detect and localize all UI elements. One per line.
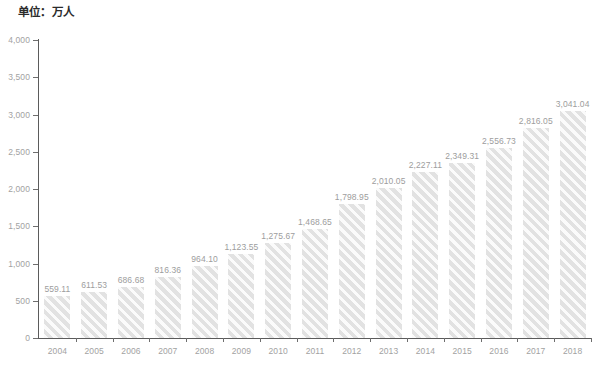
bar[interactable] bbox=[155, 277, 181, 338]
x-axis-tick bbox=[591, 338, 592, 342]
bar[interactable] bbox=[560, 111, 586, 338]
x-axis-tick bbox=[260, 338, 261, 342]
bar-value-label: 964.10 bbox=[180, 254, 230, 264]
bar-value-label: 1,275.67 bbox=[253, 231, 303, 241]
y-axis-label: 3,000 bbox=[0, 110, 30, 120]
x-axis-tick bbox=[517, 338, 518, 342]
bar[interactable] bbox=[486, 148, 512, 338]
y-axis-label: 2,500 bbox=[0, 147, 30, 157]
bars-layer bbox=[39, 40, 591, 338]
bar-value-label: 2,556.73 bbox=[474, 136, 524, 146]
y-axis-tick bbox=[33, 40, 38, 41]
y-axis-label: 3,500 bbox=[0, 72, 30, 82]
x-axis-tick bbox=[407, 338, 408, 342]
y-axis-tick bbox=[33, 264, 38, 265]
bar-value-label: 2,010.05 bbox=[364, 176, 414, 186]
bar[interactable] bbox=[44, 296, 70, 338]
bar-value-label: 3,041.04 bbox=[548, 99, 598, 109]
bar[interactable] bbox=[449, 163, 475, 338]
y-axis-tick bbox=[33, 115, 38, 116]
bar[interactable] bbox=[228, 254, 254, 338]
bar-value-label: 686.68 bbox=[106, 275, 156, 285]
bar[interactable] bbox=[412, 172, 438, 338]
bar-value-label: 1,798.95 bbox=[327, 192, 377, 202]
y-axis-tick bbox=[33, 338, 38, 339]
x-axis-tick bbox=[481, 338, 482, 342]
x-axis-tick bbox=[297, 338, 298, 342]
y-axis-tick bbox=[33, 301, 38, 302]
y-axis-label: 1,000 bbox=[0, 259, 30, 269]
y-axis-label: 1,500 bbox=[0, 221, 30, 231]
bar-value-label: 1,468.65 bbox=[290, 217, 340, 227]
bar[interactable] bbox=[81, 292, 107, 338]
bar[interactable] bbox=[339, 204, 365, 338]
bar-value-label: 816.36 bbox=[143, 265, 193, 275]
x-axis-line bbox=[38, 338, 591, 339]
x-axis-tick bbox=[149, 338, 150, 342]
bar[interactable] bbox=[523, 128, 549, 338]
y-axis-label: 0 bbox=[0, 333, 30, 343]
bar-value-label: 2,816.05 bbox=[511, 116, 561, 126]
bar-chart: 单位：万人 4,0003,5003,0002,5002,0001,5001,00… bbox=[0, 0, 607, 366]
chart-title: 单位：万人 bbox=[18, 3, 74, 19]
bar-value-label: 2,227.11 bbox=[400, 160, 450, 170]
y-axis-tick bbox=[33, 77, 38, 78]
bar-value-label: 2,349.31 bbox=[437, 151, 487, 161]
bar[interactable] bbox=[118, 287, 144, 338]
x-axis-tick bbox=[370, 338, 371, 342]
x-axis-tick bbox=[76, 338, 77, 342]
y-axis-tick bbox=[33, 189, 38, 190]
x-axis-tick bbox=[554, 338, 555, 342]
y-axis-label: 2,000 bbox=[0, 184, 30, 194]
x-axis-tick bbox=[444, 338, 445, 342]
x-axis-tick bbox=[333, 338, 334, 342]
bar[interactable] bbox=[265, 243, 291, 338]
bar[interactable] bbox=[302, 229, 328, 338]
bar[interactable] bbox=[192, 266, 218, 338]
bar[interactable] bbox=[376, 188, 402, 338]
bar-value-label: 1,123.55 bbox=[216, 242, 266, 252]
x-axis-tick bbox=[113, 338, 114, 342]
y-axis-tick bbox=[33, 226, 38, 227]
y-axis-label: 500 bbox=[0, 296, 30, 306]
x-axis-tick bbox=[186, 338, 187, 342]
y-axis-tick bbox=[33, 152, 38, 153]
x-axis-tick bbox=[223, 338, 224, 342]
x-axis-label: 2018 bbox=[548, 346, 598, 356]
y-axis-label: 4,000 bbox=[0, 35, 30, 45]
